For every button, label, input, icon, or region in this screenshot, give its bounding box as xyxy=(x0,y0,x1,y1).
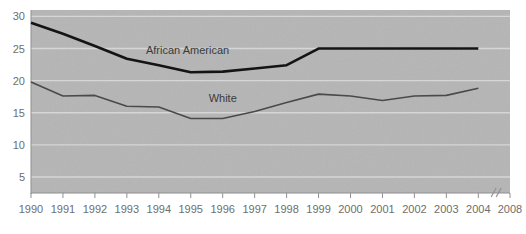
y-tick-label: 15 xyxy=(13,107,25,119)
x-tick-label: 2000 xyxy=(338,203,362,215)
x-tick-label: 1990 xyxy=(19,203,43,215)
y-tick-label: 10 xyxy=(13,139,25,151)
y-tick-label: 5 xyxy=(19,171,25,183)
x-tick-label: 1991 xyxy=(51,203,75,215)
x-tick-label: 1996 xyxy=(210,203,234,215)
x-tick-label: 2001 xyxy=(370,203,394,215)
line-chart: 30252015105 1990199119921993199419951996… xyxy=(0,0,526,234)
x-tick-label: 1998 xyxy=(274,203,298,215)
x-tick-label: 1995 xyxy=(179,203,203,215)
x-tick-label: 1999 xyxy=(306,203,330,215)
series-label-african-american: African American xyxy=(146,44,229,56)
x-tick-label: 1993 xyxy=(115,203,139,215)
x-tick-label: 2002 xyxy=(402,203,426,215)
x-tick-label: 2004 xyxy=(466,203,490,215)
y-tick-label: 30 xyxy=(13,10,25,22)
y-tick-label: 25 xyxy=(13,43,25,55)
x-tick-label: 1994 xyxy=(147,203,171,215)
chart-canvas: 30252015105 1990199119921993199419951996… xyxy=(0,0,526,234)
x-tick-label: 2008 xyxy=(498,203,522,215)
x-tick-label: 1997 xyxy=(242,203,266,215)
series-label-white: White xyxy=(209,92,237,104)
y-tick-label: 20 xyxy=(13,75,25,87)
plot-area-background xyxy=(31,10,510,193)
x-tick-label: 1992 xyxy=(83,203,107,215)
x-tick-label: 2003 xyxy=(434,203,458,215)
